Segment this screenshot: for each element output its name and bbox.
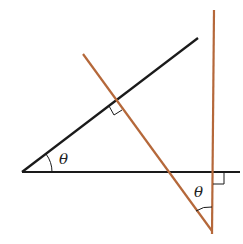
theta-label-right: θ bbox=[194, 183, 203, 201]
orange-vertical-line bbox=[212, 10, 214, 234]
geometry-diagram: θ θ bbox=[0, 0, 243, 244]
orange-diagonal-line bbox=[83, 54, 212, 231]
angle-arc-right bbox=[196, 207, 212, 211]
angle-arc-left bbox=[46, 154, 52, 172]
black-diagonal-line bbox=[22, 38, 198, 172]
theta-label-left: θ bbox=[59, 150, 68, 168]
right-angle-marker-lower bbox=[213, 173, 224, 184]
right-angle-marker-upper bbox=[109, 106, 122, 115]
